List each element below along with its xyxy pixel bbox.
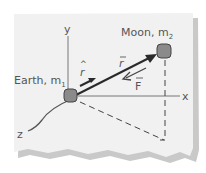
earth-label: Earth, m1	[14, 74, 66, 89]
y-axis-label: y	[64, 23, 71, 36]
diagram-canvas: y x z r r ^ F Earth, m1 Moon, m2	[0, 0, 206, 173]
x-axis-label: x	[182, 90, 189, 103]
moon-body	[157, 44, 171, 58]
z-axis-label: z	[17, 128, 23, 141]
earth-body	[64, 89, 77, 102]
force-label: F	[135, 80, 141, 93]
r-hat-caret: ^	[80, 60, 87, 69]
moon-label: Moon, m2	[121, 26, 173, 41]
